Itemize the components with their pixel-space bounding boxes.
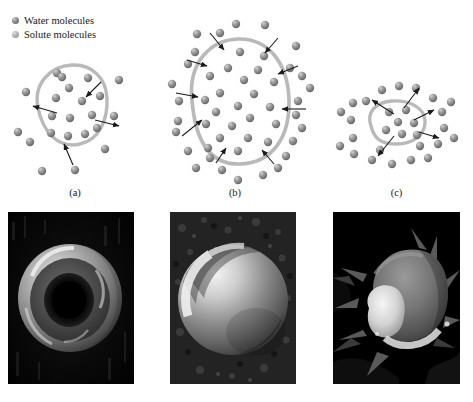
micrograph-row (0, 212, 473, 390)
panel-c-drawing (320, 8, 473, 200)
panel-label-a: (a) (0, 187, 150, 198)
molecules-inside-a (47, 73, 101, 140)
molecules-inside-b (201, 48, 280, 155)
panel-b-drawing (150, 8, 320, 200)
panel-label-b: (b) (150, 187, 320, 198)
molecules-inside-c (382, 106, 421, 139)
diagram-panels: (a) (0, 8, 473, 200)
osmosis-figure: Water molecules Solute molecules (0, 0, 473, 402)
molecules-outside-b (168, 20, 314, 184)
panel-label-c: (c) (320, 187, 473, 198)
panel-a-drawing (0, 8, 150, 200)
panel-a-isotonic: (a) (0, 8, 150, 200)
panel-b-hypotonic: (b) (150, 8, 320, 200)
panel-c-hypertonic: (c) (320, 8, 473, 200)
micrograph-b-swollen-rbc (170, 212, 296, 384)
micrograph-a-normal-rbc (8, 212, 134, 384)
micrograph-c-crenated-rbc (333, 212, 460, 384)
